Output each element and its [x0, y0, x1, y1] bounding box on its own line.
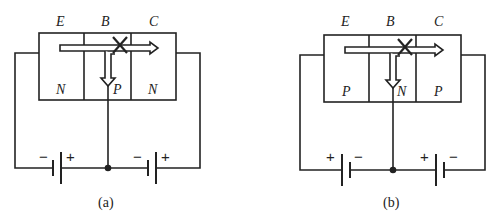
battery-right-minus-b: −	[449, 148, 458, 165]
region-collector-b: P	[433, 84, 443, 99]
battery-right-plus-a: +	[161, 148, 170, 165]
label-collector-a: C	[149, 14, 159, 29]
base-current-arrow-a	[101, 51, 115, 86]
battery-left-minus-b: −	[354, 148, 363, 165]
region-base-a: P	[112, 82, 122, 97]
battery-left-minus-a: −	[39, 148, 48, 165]
label-base-b: B	[386, 14, 395, 29]
label-emitter-b: E	[340, 14, 350, 29]
region-emitter-a: N	[55, 82, 66, 97]
battery-right-plus-b: +	[420, 148, 429, 165]
label-base-a: B	[101, 14, 110, 29]
battery-left-plus-a: +	[66, 148, 75, 165]
junction-node-b	[391, 168, 396, 173]
base-current-arrow-b	[386, 53, 400, 88]
emitter-wire-b	[300, 55, 342, 170]
battery-right-minus-a: −	[133, 148, 142, 165]
region-emitter-b: P	[341, 84, 351, 99]
region-base-b: N	[396, 84, 407, 99]
caption-a: (a)	[98, 195, 114, 211]
junction-node-a	[106, 166, 111, 171]
caption-b: (b)	[383, 195, 400, 211]
transistor-diagram: E B C N P N − + − + (a) E B C P N P + − …	[0, 0, 493, 215]
label-collector-b: C	[434, 14, 444, 29]
region-collector-a: N	[147, 82, 158, 97]
battery-left-plus-b: +	[326, 148, 335, 165]
label-emitter-a: E	[55, 14, 65, 29]
